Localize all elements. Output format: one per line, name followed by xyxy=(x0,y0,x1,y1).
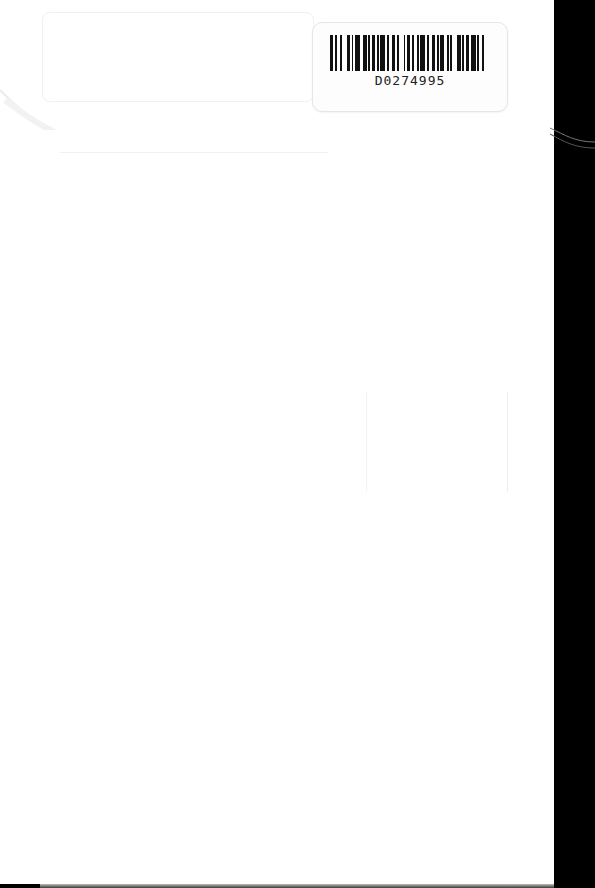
page-edge-shadow xyxy=(40,884,554,888)
bleed-through-box xyxy=(366,392,508,492)
barcode-number: D0274995 xyxy=(313,73,507,88)
barcode-icon xyxy=(330,35,486,71)
bleed-through-line xyxy=(60,152,328,153)
scanned-page: D0274995 xyxy=(0,0,554,884)
page-curl-line xyxy=(550,120,595,160)
barcode-sticker: D0274995 xyxy=(312,22,508,112)
